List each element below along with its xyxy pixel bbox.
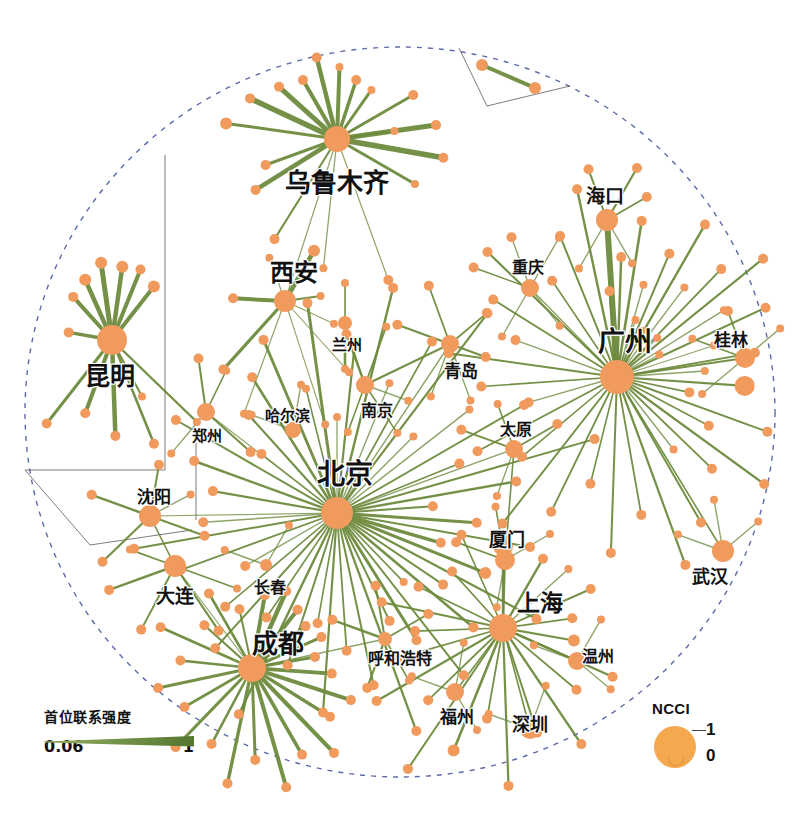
network-node[interactable] xyxy=(636,510,646,520)
network-node[interactable] xyxy=(313,618,323,628)
network-node[interactable] xyxy=(167,449,175,457)
network-node[interactable] xyxy=(176,565,186,575)
network-node[interactable] xyxy=(342,646,352,656)
network-node[interactable] xyxy=(670,446,678,454)
network-node[interactable] xyxy=(465,406,473,414)
network-node[interactable] xyxy=(655,351,663,359)
network-node[interactable] xyxy=(171,415,181,425)
network-node[interactable] xyxy=(410,626,420,636)
network-node[interactable] xyxy=(427,337,437,347)
network-node[interactable] xyxy=(408,90,418,100)
network-node[interactable] xyxy=(68,292,78,302)
network-node[interactable] xyxy=(585,479,595,489)
network-node[interactable] xyxy=(110,431,120,441)
network-node[interactable] xyxy=(584,164,594,174)
network-node[interactable] xyxy=(382,323,390,331)
network-node[interactable] xyxy=(707,464,717,474)
network-node[interactable] xyxy=(454,459,464,469)
network-node[interactable] xyxy=(261,160,271,170)
network-node[interactable] xyxy=(329,748,339,758)
network-node[interactable] xyxy=(204,589,214,599)
network-node[interactable] xyxy=(680,560,690,570)
network-node[interactable] xyxy=(473,446,483,456)
network-node[interactable] xyxy=(392,320,402,330)
network-node[interactable] xyxy=(297,381,305,389)
network-node[interactable] xyxy=(372,696,382,706)
network-node[interactable] xyxy=(504,781,514,791)
network-node[interactable] xyxy=(723,306,733,316)
network-node[interactable] xyxy=(351,75,361,85)
network-node[interactable] xyxy=(327,669,337,679)
network-node[interactable] xyxy=(488,295,498,305)
network-node[interactable] xyxy=(245,93,255,103)
network-node[interactable] xyxy=(222,367,230,375)
network-node[interactable] xyxy=(42,419,52,429)
network-node[interactable] xyxy=(325,712,335,722)
network-node[interactable] xyxy=(199,620,209,630)
network-node[interactable] xyxy=(148,280,160,292)
network-node[interactable] xyxy=(341,365,349,373)
network-node[interactable] xyxy=(214,626,224,636)
network-node[interactable] xyxy=(256,449,266,459)
network-node[interactable] xyxy=(324,126,350,152)
network-node[interactable] xyxy=(530,641,538,649)
network-node[interactable] xyxy=(344,428,352,436)
network-node[interactable] xyxy=(385,379,393,387)
network-node[interactable] xyxy=(247,372,257,382)
network-node[interactable] xyxy=(586,584,596,594)
network-node[interactable] xyxy=(616,252,626,262)
network-node[interactable] xyxy=(758,254,768,264)
network-node[interactable] xyxy=(223,778,233,788)
network-node[interactable] xyxy=(467,396,475,404)
network-node[interactable] xyxy=(189,456,199,466)
network-node[interactable] xyxy=(696,518,706,528)
network-node[interactable] xyxy=(492,503,500,511)
network-node[interactable] xyxy=(378,632,392,646)
network-node[interactable] xyxy=(688,335,696,343)
network-node[interactable] xyxy=(200,531,210,541)
network-node[interactable] xyxy=(427,393,435,401)
network-node[interactable] xyxy=(312,53,322,63)
network-node[interactable] xyxy=(156,622,166,632)
network-node[interactable] xyxy=(136,265,146,275)
network-node[interactable] xyxy=(175,656,185,666)
network-node[interactable] xyxy=(154,460,164,470)
network-node[interactable] xyxy=(298,75,308,85)
network-node[interactable] xyxy=(556,322,564,330)
network-node[interactable] xyxy=(568,635,580,647)
network-node[interactable] xyxy=(377,597,387,607)
network-node[interactable] xyxy=(139,505,161,527)
network-node[interactable] xyxy=(498,333,506,341)
network-node[interactable] xyxy=(310,652,320,662)
network-node[interactable] xyxy=(446,683,464,701)
network-node[interactable] xyxy=(542,682,550,690)
network-node[interactable] xyxy=(274,82,284,92)
network-node[interactable] xyxy=(521,279,539,297)
network-node[interactable] xyxy=(485,710,493,718)
network-node[interactable] xyxy=(293,605,303,615)
network-node[interactable] xyxy=(79,274,91,286)
network-node[interactable] xyxy=(489,614,517,642)
network-node[interactable] xyxy=(664,249,674,259)
network-node[interactable] xyxy=(572,685,582,695)
network-node[interactable] xyxy=(411,726,421,736)
network-node[interactable] xyxy=(575,265,583,273)
network-node[interactable] xyxy=(572,184,582,194)
network-node[interactable] xyxy=(640,281,648,289)
network-node[interactable] xyxy=(321,497,353,529)
network-node[interactable] xyxy=(327,615,337,625)
network-node[interactable] xyxy=(208,486,218,496)
network-node[interactable] xyxy=(240,561,250,571)
network-node[interactable] xyxy=(97,325,127,355)
network-node[interactable] xyxy=(393,429,401,437)
network-node[interactable] xyxy=(529,82,541,94)
network-node[interactable] xyxy=(153,683,163,693)
network-node[interactable] xyxy=(761,303,771,313)
network-node[interactable] xyxy=(524,397,534,407)
network-node[interactable] xyxy=(637,216,647,226)
network-node[interactable] xyxy=(628,259,636,267)
network-node[interactable] xyxy=(210,643,220,653)
network-node[interactable] xyxy=(87,490,97,500)
network-node[interactable] xyxy=(64,327,74,337)
network-node[interactable] xyxy=(333,413,341,421)
